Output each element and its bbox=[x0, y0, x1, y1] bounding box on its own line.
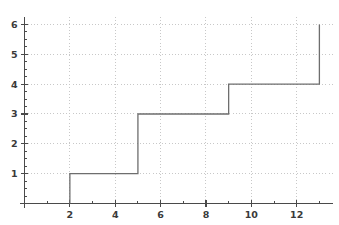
step-chart: 123456 24681012 bbox=[0, 0, 339, 225]
x-tick-label: 12 bbox=[290, 209, 303, 220]
x-tick-label: 8 bbox=[203, 209, 210, 220]
x-tick-label: 10 bbox=[245, 209, 259, 220]
y-tick-label: 4 bbox=[11, 79, 18, 90]
x-tick-label: 4 bbox=[112, 209, 119, 220]
x-gridlines-group bbox=[70, 17, 297, 204]
data-series-group bbox=[70, 24, 320, 203]
chart-container: 123456 24681012 bbox=[0, 0, 339, 225]
y-tick-label: 6 bbox=[11, 19, 18, 30]
x-tick-label: 2 bbox=[67, 209, 74, 220]
y-tick-label: 3 bbox=[11, 108, 18, 119]
y-tick-label: 2 bbox=[11, 138, 18, 149]
y-gridlines-group bbox=[25, 24, 334, 173]
y-axis-tick-labels: 123456 bbox=[11, 19, 18, 179]
x-axis-tick-labels: 24681012 bbox=[67, 209, 304, 220]
step-line-step bbox=[70, 24, 320, 203]
y-tick-label: 1 bbox=[11, 168, 18, 179]
x-tick-label: 6 bbox=[157, 209, 164, 220]
y-tick-label: 5 bbox=[11, 49, 18, 60]
axes-group bbox=[20, 17, 334, 208]
